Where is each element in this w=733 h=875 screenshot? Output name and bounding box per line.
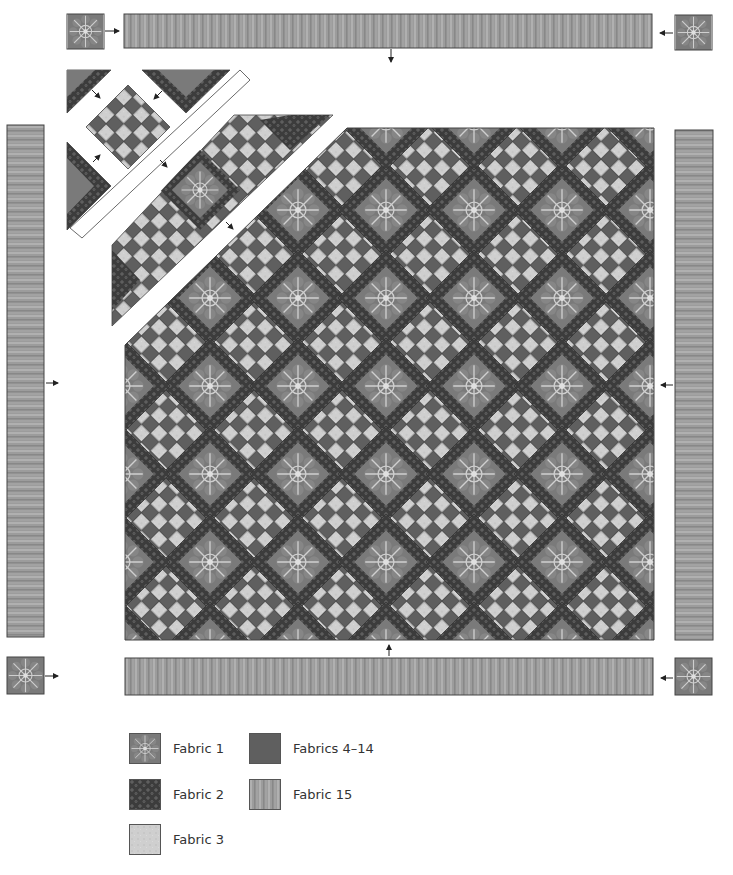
bottom-border-strip xyxy=(125,658,653,695)
legend-label: Fabric 1 xyxy=(173,741,224,756)
left-border xyxy=(7,125,58,637)
legend-item-fabric-1: Fabric 1 xyxy=(129,733,224,764)
corner-square-top-right xyxy=(676,15,711,50)
arrow-icon xyxy=(226,222,233,229)
quilt-assembly-diagram xyxy=(0,0,733,720)
right-border xyxy=(661,130,713,640)
fabrics-4-14-swatch xyxy=(249,733,281,764)
arrow-icon xyxy=(93,155,100,162)
top-border-row xyxy=(67,14,712,62)
bottom-border-row xyxy=(7,645,712,695)
legend-item-fabric-2: Fabric 2 xyxy=(129,779,224,810)
arrow-icon xyxy=(92,90,100,98)
corner-square-bottom-right xyxy=(675,658,712,695)
fabric-15-swatch xyxy=(249,779,281,810)
fabric-3-swatch xyxy=(129,824,161,855)
legend-item-fabric-3: Fabric 3 xyxy=(129,824,224,855)
legend-label: Fabric 3 xyxy=(173,832,224,847)
right-border-strip xyxy=(675,130,713,640)
legend-label: Fabrics 4–14 xyxy=(293,741,374,756)
legend-item-fabric-15: Fabric 15 xyxy=(249,779,352,810)
fabric-1-swatch xyxy=(129,733,161,764)
fabric-2-swatch xyxy=(129,779,161,810)
arrow-icon xyxy=(154,91,162,99)
left-border-strip xyxy=(7,125,44,637)
legend-label: Fabric 15 xyxy=(293,787,352,802)
legend-label: Fabric 2 xyxy=(173,787,224,802)
corner-square-top-left xyxy=(68,14,103,49)
top-border-strip xyxy=(124,14,652,48)
quilt-center xyxy=(74,74,698,698)
corner-square-bottom-left xyxy=(7,657,44,694)
legend-item-fabrics-4-14: Fabrics 4–14 xyxy=(249,733,374,764)
